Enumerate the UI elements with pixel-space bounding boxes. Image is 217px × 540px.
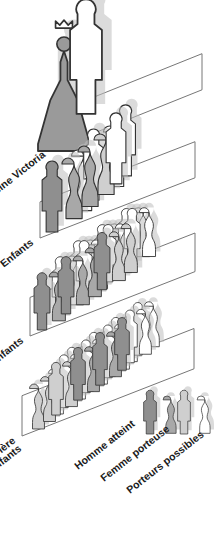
person-figure: [70, 0, 112, 114]
legend-label-text: Porteurs possibles: [124, 428, 206, 496]
legend-label-femme-porteuse: Femme porteuse: [98, 422, 172, 483]
tier-label-line: Enfants: [0, 236, 35, 269]
tier-label-tier-petits-enfants: Petits-enfants: [0, 334, 25, 386]
person-figure: [42, 155, 68, 232]
legend-label-text: Femme porteuse: [98, 422, 172, 483]
tier-label-tier-victoria: Reine Victoria: [0, 148, 47, 201]
legend-label-porteurs-possibles: Porteurs possibles: [124, 428, 206, 496]
legend-figure-porteurs-possibles-2: [197, 392, 214, 433]
tier-label-tier-arriere-petits-enfants: Arrièrepetits-enfants: [0, 434, 24, 494]
pedigree-diagram: Reine VictoriaEnfantsPetits-enfantsArriè…: [0, 0, 217, 540]
tier-label-line: Petits-enfants: [0, 334, 25, 386]
legend: Homme atteintFemme porteusePorteurs poss…: [72, 386, 214, 495]
queen-head: [57, 37, 71, 51]
legend-figure-porteurs-possibles: [178, 386, 195, 434]
tier-label-tier-enfants: Enfants: [0, 236, 35, 269]
tier-label-line: Reine Victoria: [0, 148, 47, 201]
